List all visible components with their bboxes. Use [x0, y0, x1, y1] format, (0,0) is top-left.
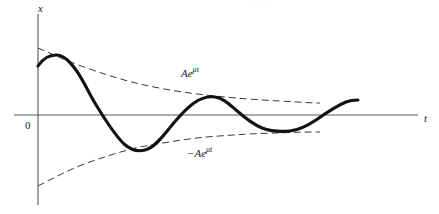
lower-envelope-annotation-base: −Ae — [187, 147, 206, 159]
plot-canvas — [0, 0, 439, 214]
upper-envelope-annotation-exponent: μt — [193, 65, 199, 74]
lower-envelope-annotation: −Aeμt — [187, 148, 212, 159]
upper-envelope-annotation-base: Ae — [181, 67, 193, 79]
origin-tick-label: 0 — [25, 120, 31, 131]
upper-envelope-annotation: Aeμt — [181, 68, 199, 79]
lower-envelope-curve — [38, 132, 320, 186]
lower-envelope-annotation-exponent: μt — [206, 145, 212, 154]
y-axis-label: x — [38, 3, 43, 14]
x-axis-label: t — [424, 113, 427, 124]
damped-oscillation-figure: · · · · · x t 0 Aeμt −Aeμt — [0, 0, 439, 214]
